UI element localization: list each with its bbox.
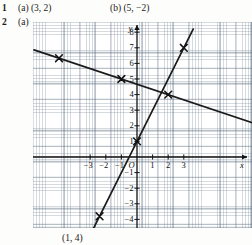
coordinate-grid-graph: −3−2−112312345678−1−2−3−4Oyx <box>33 22 252 228</box>
origin-label: O <box>129 161 135 170</box>
question-1-part-a: (a) (3, 2) <box>18 3 52 13</box>
y-tick-label: 5 <box>130 75 134 84</box>
y-axis-label: y <box>129 24 133 33</box>
graph-caption: (1, 4) <box>62 233 83 243</box>
part-b-label: (b) <box>110 3 121 13</box>
question-1-part-b: (b) (5, −2) <box>110 3 149 13</box>
y-tick-label: 6 <box>130 59 134 68</box>
y-axis-arrow <box>134 25 139 30</box>
y-tick-label: −2 <box>125 184 134 193</box>
x-tick-label: −3 <box>84 161 93 170</box>
x-tick-label: 2 <box>166 161 170 170</box>
question-2-part-a-label: (a) <box>18 17 29 27</box>
part-a-label: (a) <box>18 3 29 13</box>
y-tick-label: 2 <box>130 121 134 130</box>
x-axis-arrow <box>242 154 247 159</box>
series-ascending-line <box>93 29 193 228</box>
part-a-answer: (3, 2) <box>31 3 52 13</box>
graph-plot <box>33 22 252 228</box>
question-number-1: 1 <box>2 3 7 13</box>
worksheet-page: 1 (a) (3, 2) (b) (5, −2) 2 (a) −3−2−1123… <box>0 0 252 245</box>
y-tick-label: 1 <box>130 137 134 146</box>
point-marker-cross <box>96 213 103 220</box>
y-tick-label: 3 <box>130 106 134 115</box>
x-tick-label: −1 <box>115 161 124 170</box>
y-tick-label: −4 <box>125 215 134 224</box>
x-tick-label: 3 <box>182 161 186 170</box>
question-number-2: 2 <box>2 17 7 27</box>
x-tick-label: 1 <box>150 161 154 170</box>
part-b-answer: (5, −2) <box>123 3 149 13</box>
point-marker-cross <box>180 44 187 51</box>
series-descending-line <box>34 50 252 123</box>
y-tick-label: 4 <box>130 90 134 99</box>
y-tick-label: 7 <box>130 43 134 52</box>
y-tick-label: −3 <box>125 199 134 208</box>
x-axis-label: x <box>240 161 244 170</box>
x-tick-label: −2 <box>99 161 108 170</box>
